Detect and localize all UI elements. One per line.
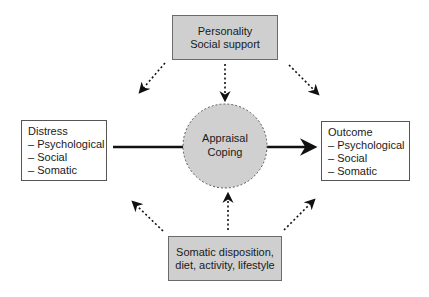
outcome-item: Social <box>328 152 409 165</box>
appraisal-line: Appraisal <box>185 131 265 145</box>
distress-title: Distress <box>28 125 106 138</box>
distress-item: Social <box>28 151 106 164</box>
personality-line-1: Personality <box>173 25 277 38</box>
arrow-top-left <box>140 63 165 92</box>
appraisal-coping-label: Appraisal Coping <box>185 131 265 159</box>
somatic-line-1: Somatic disposition, <box>169 246 281 259</box>
personality-box: Personality Social support <box>172 15 278 60</box>
arrow-top-right <box>289 65 318 94</box>
somatic-disposition-box: Somatic disposition, diet, activity, lif… <box>168 236 282 281</box>
outcome-item: Somatic <box>328 165 409 178</box>
coping-line: Coping <box>185 145 265 159</box>
distress-item: Psychological <box>28 138 106 151</box>
outcome-item: Psychological <box>328 139 409 152</box>
outcome-box: Outcome Psychological Social Somatic <box>321 121 410 181</box>
distress-box: Distress Psychological Social Somatic <box>21 120 107 181</box>
arrow-bottom-right <box>284 200 314 230</box>
personality-line-2: Social support <box>173 38 277 51</box>
outcome-title: Outcome <box>328 126 409 139</box>
distress-item: Somatic <box>28 164 106 177</box>
somatic-line-2: diet, activity, lifestyle <box>169 259 281 272</box>
arrow-bottom-left <box>133 202 163 231</box>
